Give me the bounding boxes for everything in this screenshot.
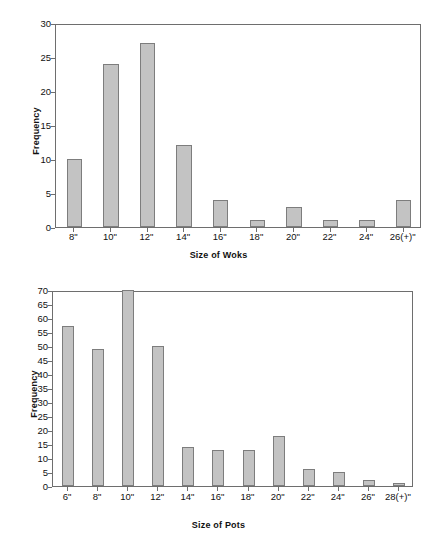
x-tick-mark [248,487,249,491]
y-tick-label: 15 [37,440,48,450]
x-tick-mark [368,487,369,491]
y-tick-label: 10 [37,454,48,464]
bar [359,220,374,227]
chart-pots: Frequency 0510152025303540455055606570 6… [0,282,437,559]
y-tick-label: 20 [37,426,48,436]
y-tick-label: 35 [37,384,48,394]
x-tick-mark [338,487,339,491]
bar [67,159,82,227]
x-tick-mark [398,487,399,491]
x-axis-title-woks: Size of Woks [0,250,437,260]
y-tick-label: 55 [37,328,48,338]
plot-area-pots [52,291,413,487]
y-tick-label: 45 [37,356,48,366]
bar [243,450,255,486]
chart-woks: Frequency 051015202530 8"10"12"14"16"18"… [0,0,437,272]
x-tick-mark [183,228,184,232]
bar [182,447,194,486]
y-tick-label: 10 [40,155,51,165]
x-axis-title-pots: Size of Pots [0,520,437,530]
x-tick-label: 16" [213,232,227,242]
y-axis-ticks-pots: 0510152025303540455055606570 [18,291,48,487]
y-tick-label: 65 [37,300,48,310]
bar-series-woks [56,25,420,227]
y-tick-label: 70 [37,286,48,296]
y-tick-label: 25 [37,412,48,422]
bar-series-pots [53,292,412,486]
x-tick-mark [67,487,68,491]
plot-area-woks [55,24,421,228]
x-tick-label: 20" [286,232,300,242]
x-axis-ticks-woks: 8"10"12"14"16"18"20"22"24"26(+)" [55,232,421,248]
x-tick-label: 14" [176,232,190,242]
x-tick-label: 26(+)" [390,232,416,242]
bar [363,480,375,486]
x-tick-label: 12" [150,492,164,502]
bar [176,145,191,227]
x-tick-label: 8" [69,232,78,242]
bar [333,472,345,486]
x-tick-label: 26" [361,492,375,502]
y-tick-label: 30 [37,398,48,408]
x-tick-label: 10" [120,492,134,502]
x-tick-label: 6" [63,492,72,502]
x-tick-label: 18" [249,232,263,242]
x-tick-mark [366,228,367,232]
bar [213,200,228,227]
x-tick-mark [147,228,148,232]
x-tick-mark [278,487,279,491]
x-tick-mark [217,487,218,491]
x-axis-ticks-pots: 6"8"10"12"14"16"18"20"22"24"26"28(+)" [52,492,413,508]
x-tick-mark [220,228,221,232]
bar [140,43,155,227]
bar [212,450,224,486]
bar [62,326,74,486]
x-tick-mark [330,228,331,232]
x-tick-mark [256,228,257,232]
x-tick-mark [110,228,111,232]
x-tick-label: 24" [331,492,345,502]
x-tick-label: 22" [323,232,337,242]
y-tick-mark [51,228,55,229]
bar [286,207,301,227]
x-tick-label: 12" [140,232,154,242]
x-tick-mark [157,487,158,491]
y-tick-label: 25 [40,53,51,63]
x-tick-mark [403,228,404,232]
y-tick-label: 40 [37,370,48,380]
y-tick-label: 50 [37,342,48,352]
x-tick-label: 22" [301,492,315,502]
bar [250,220,265,227]
bar [92,349,104,486]
bar [152,346,164,486]
y-tick-label: 15 [40,121,51,131]
bar [303,469,315,486]
x-tick-mark [73,228,74,232]
bar [323,220,338,227]
y-axis-ticks-woks: 051015202530 [21,24,51,228]
x-tick-label: 16" [210,492,224,502]
bar [393,483,405,486]
bar [103,64,118,227]
x-tick-label: 24" [359,232,373,242]
x-tick-mark [308,487,309,491]
bar [396,200,411,227]
x-tick-label: 8" [93,492,102,502]
y-tick-label: 60 [37,314,48,324]
y-tick-label: 30 [40,19,51,29]
bar [273,436,285,486]
x-tick-label: 20" [271,492,285,502]
x-tick-mark [187,487,188,491]
x-tick-mark [97,487,98,491]
y-tick-mark [48,487,52,488]
y-tick-label: 20 [40,87,51,97]
x-tick-label: 28(+)" [385,492,411,502]
x-tick-mark [293,228,294,232]
bar [122,290,134,486]
x-tick-label: 10" [103,232,117,242]
x-tick-label: 14" [180,492,194,502]
x-tick-label: 18" [241,492,255,502]
x-tick-mark [127,487,128,491]
